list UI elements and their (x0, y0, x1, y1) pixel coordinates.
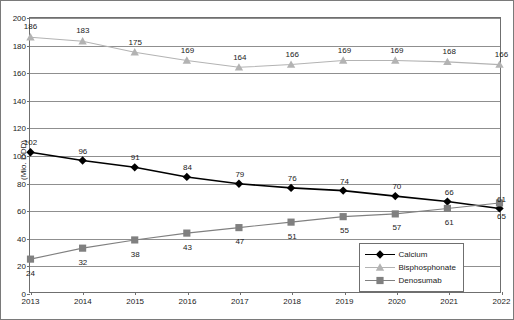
data-point-marker (79, 245, 86, 252)
data-point-marker (78, 156, 86, 164)
legend-key-icon (365, 249, 395, 260)
legend-item-denosumab[interactable]: Denosumab (365, 274, 456, 287)
legend-key-icon (365, 262, 395, 273)
data-point-label: 65 (497, 212, 506, 221)
x-tick-label: 2022 (493, 297, 511, 306)
data-point-marker (131, 163, 139, 171)
series-line (30, 152, 499, 208)
data-point-marker (183, 230, 190, 237)
data-point-marker (27, 256, 34, 263)
data-point-label: 91 (131, 153, 140, 162)
x-tick-mark (240, 292, 241, 295)
legend-label: Denosumab (399, 276, 442, 285)
y-tick-label: 60 (17, 207, 26, 216)
y-tick-label: 100 (13, 152, 26, 161)
data-point-label: 164 (233, 52, 246, 61)
x-tick-mark (345, 292, 346, 295)
y-tick-label: 180 (13, 41, 26, 50)
data-point-label: 38 (131, 249, 140, 258)
data-point-label: 76 (288, 174, 297, 183)
legend-marker-icon (365, 275, 395, 286)
x-tick-mark (292, 292, 293, 295)
data-point-label: 96 (78, 146, 87, 155)
data-point-label: 169 (338, 45, 351, 54)
data-point-label: 32 (78, 257, 87, 266)
x-tick-mark (397, 292, 398, 295)
data-point-marker (26, 33, 34, 40)
y-tick-label: 20 (17, 262, 26, 271)
data-point-label: 169 (181, 45, 194, 54)
legend-item-bisphosphonate[interactable]: Bisphosphonate (365, 261, 456, 274)
legend-item-calcium[interactable]: Calcium (365, 248, 456, 261)
legend-label: Calcium (399, 250, 428, 259)
data-point-label: 70 (392, 182, 401, 191)
data-point-label: 166 (495, 49, 508, 58)
data-point-label: 57 (392, 223, 401, 232)
x-tick-label: 2021 (440, 297, 458, 306)
data-point-marker (392, 210, 399, 217)
data-point-label: 24 (26, 268, 35, 277)
data-point-label: 51 (288, 231, 297, 240)
data-point-label: 186 (24, 22, 37, 31)
series-line (30, 37, 499, 67)
x-tick-mark (135, 292, 136, 295)
data-point-marker (183, 173, 191, 181)
y-tick-label: 140 (13, 96, 26, 105)
data-point-label: 61 (445, 217, 454, 226)
legend-marker-icon (365, 249, 395, 260)
data-point-label: 55 (340, 226, 349, 235)
y-tick-label: 80 (17, 179, 26, 188)
chart-legend: CalciumBisphosphonateDenosumab (359, 243, 464, 292)
data-point-marker (287, 219, 294, 226)
x-tick-label: 2019 (336, 297, 354, 306)
y-tick-label: 160 (13, 69, 26, 78)
x-tick-mark (188, 292, 189, 295)
x-tick-label: 2013 (22, 297, 40, 306)
data-point-label: 47 (235, 237, 244, 246)
data-point-marker (391, 192, 399, 200)
data-point-marker (235, 180, 243, 188)
data-point-label: 183 (76, 26, 89, 35)
data-point-label: 166 (285, 49, 298, 58)
legend-marker-icon (365, 262, 395, 273)
legend-key-icon (365, 275, 395, 286)
data-point-label: 84 (183, 163, 192, 172)
plot-area: 020406080100120140160180200 201320142015… (29, 17, 501, 293)
x-tick-mark (83, 292, 84, 295)
x-tick-label: 2020 (388, 297, 406, 306)
data-point-marker (131, 236, 138, 243)
data-point-label: 168 (442, 47, 455, 56)
series-bisphosphonate (26, 33, 503, 71)
data-point-label: 102 (24, 138, 37, 147)
x-tick-mark (449, 292, 450, 295)
legend-label: Bisphosphonate (399, 263, 456, 272)
x-tick-label: 2017 (231, 297, 249, 306)
x-tick-label: 2014 (74, 297, 92, 306)
data-point-label: 74 (340, 176, 349, 185)
data-point-marker (444, 205, 451, 212)
series-calcium (26, 148, 503, 213)
data-point-label: 169 (390, 45, 403, 54)
y-tick-label: 120 (13, 124, 26, 133)
chart-figure: (Mio. DDD) 020406080100120140160180200 2… (0, 0, 514, 320)
data-point-label: 79 (235, 169, 244, 178)
x-tick-label: 2015 (126, 297, 144, 306)
x-tick-label: 2018 (283, 297, 301, 306)
data-point-label: 61 (497, 194, 506, 203)
x-tick-label: 2016 (179, 297, 197, 306)
data-point-marker (340, 213, 347, 220)
data-point-marker (339, 186, 347, 194)
x-tick-mark (502, 292, 503, 295)
data-point-marker (235, 224, 242, 231)
data-point-label: 43 (183, 242, 192, 251)
x-tick-mark (31, 292, 32, 295)
data-point-label: 66 (445, 187, 454, 196)
data-point-marker (287, 184, 295, 192)
data-point-marker (443, 197, 451, 205)
y-tick-label: 40 (17, 234, 26, 243)
data-point-label: 175 (128, 37, 141, 46)
